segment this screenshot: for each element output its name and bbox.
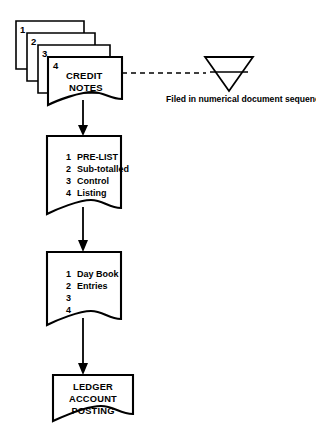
credit-notes-label-line2: NOTES	[69, 82, 103, 93]
daybook-row-number: 4	[66, 305, 77, 315]
daybook-row: 4	[56, 295, 77, 325]
arrowhead-prelist	[78, 125, 88, 136]
prelist-row: 4Listing	[56, 178, 107, 208]
prelist-row-number: 4	[66, 188, 77, 198]
ledger-posting-line1: LEDGER	[53, 381, 133, 393]
ledger-posting-line3: POSTING	[53, 405, 133, 417]
prelist-row-text: Listing	[77, 188, 107, 198]
file-triangle-shape	[205, 57, 253, 91]
file-triangle-caption: Filed in numerical document sequence	[166, 94, 316, 104]
stack-sheet-3-number: 3	[42, 48, 47, 59]
credit-notes-label-line1: CREDIT	[66, 70, 103, 81]
stack-sheet-4-number: 4	[53, 60, 58, 71]
flowchart-canvas: 1 2 3 4 CREDIT NOTES Filed in numerical …	[0, 0, 316, 443]
stack-sheet-1-number: 1	[20, 24, 25, 35]
flowchart-graphics	[0, 0, 316, 443]
stack-sheet-2-number: 2	[31, 36, 36, 47]
ledger-posting-line2: ACCOUNT	[53, 393, 133, 405]
arrowhead-daybook	[78, 240, 88, 252]
arrowhead-ledger	[78, 363, 88, 375]
daybook-row-text: Entries	[77, 281, 108, 291]
